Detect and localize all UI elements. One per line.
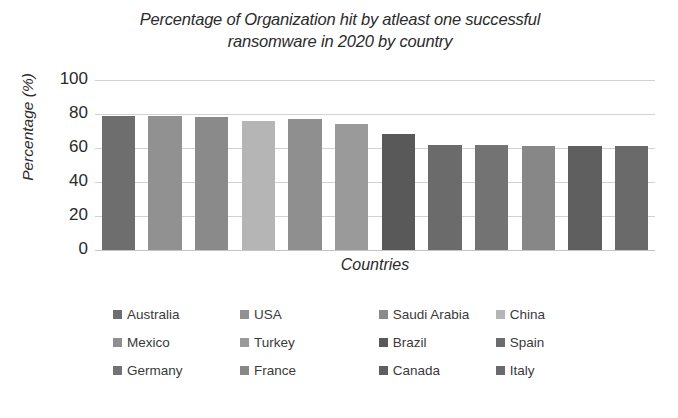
legend-item-turkey[interactable]: Turkey — [240, 335, 379, 350]
legend-swatch-icon — [496, 310, 505, 319]
bar-brazil — [382, 134, 416, 250]
y-axis-tick-label: 80 — [42, 103, 88, 123]
legend-row: AustraliaUSASaudi ArabiaChina — [95, 300, 595, 328]
y-axis-tick-label: 60 — [42, 137, 88, 157]
bar-france — [522, 146, 556, 250]
plot-area — [95, 80, 655, 251]
legend-label: Germany — [127, 363, 183, 378]
legend-swatch-icon — [113, 366, 122, 375]
bar-canada — [568, 146, 602, 250]
legend-item-australia[interactable]: Australia — [95, 307, 240, 322]
legend-item-spain[interactable]: Spain — [496, 335, 595, 350]
legend-item-mexico[interactable]: Mexico — [95, 335, 240, 350]
legend-item-canada[interactable]: Canada — [379, 363, 496, 378]
legend-item-usa[interactable]: USA — [240, 307, 379, 322]
legend-swatch-icon — [379, 338, 388, 347]
y-axis-tick-label: 100 — [42, 69, 88, 89]
bar-turkey — [335, 124, 369, 250]
legend-row: MexicoTurkeyBrazilSpain — [95, 328, 595, 356]
legend-label: Saudi Arabia — [393, 307, 470, 322]
legend-swatch-icon — [113, 310, 122, 319]
bar-saudi-arabia — [195, 117, 229, 250]
legend-swatch-icon — [496, 366, 505, 375]
legend-label: Italy — [510, 363, 535, 378]
bar-series — [95, 80, 655, 250]
legend-label: USA — [254, 307, 282, 322]
legend-swatch-icon — [113, 338, 122, 347]
legend-item-china[interactable]: China — [496, 307, 595, 322]
bar-china — [242, 121, 276, 250]
y-axis-tick-labels: 100806040200 — [30, 80, 88, 251]
y-axis-tick-label: 20 — [42, 205, 88, 225]
gridline — [95, 250, 655, 251]
legend-label: Turkey — [254, 335, 295, 350]
bar-chart: Percentage of Organization hit by atleas… — [0, 0, 678, 418]
legend-label: Australia — [127, 307, 180, 322]
legend-swatch-icon — [240, 338, 249, 347]
legend-item-germany[interactable]: Germany — [95, 363, 240, 378]
chart-title-line-1: Percentage of Organization hit by atleas… — [140, 10, 541, 28]
legend-swatch-icon — [379, 310, 388, 319]
legend-item-brazil[interactable]: Brazil — [379, 335, 496, 350]
chart-title-line-2: ransomware in 2020 by country — [228, 32, 452, 50]
legend-swatch-icon — [240, 310, 249, 319]
legend-swatch-icon — [240, 366, 249, 375]
y-axis-tick-label: 0 — [42, 239, 88, 259]
legend-item-italy[interactable]: Italy — [496, 363, 595, 378]
bar-germany — [475, 145, 509, 250]
legend-label: Canada — [393, 363, 440, 378]
bar-mexico — [288, 119, 322, 250]
y-axis-tick-label: 40 — [42, 171, 88, 191]
bar-australia — [102, 116, 136, 250]
x-axis-title: Countries — [95, 256, 655, 274]
legend-label: Spain — [510, 335, 545, 350]
legend: AustraliaUSASaudi ArabiaChinaMexicoTurke… — [95, 300, 595, 384]
legend-swatch-icon — [496, 338, 505, 347]
bar-usa — [148, 116, 182, 250]
legend-item-saudi-arabia[interactable]: Saudi Arabia — [379, 307, 496, 322]
bar-italy — [615, 146, 649, 250]
legend-label: Brazil — [393, 335, 427, 350]
legend-label: Mexico — [127, 335, 170, 350]
legend-label: France — [254, 363, 296, 378]
legend-swatch-icon — [379, 366, 388, 375]
chart-title: Percentage of Organization hit by atleas… — [60, 8, 620, 52]
legend-item-france[interactable]: France — [240, 363, 379, 378]
bar-spain — [428, 145, 462, 250]
legend-row: GermanyFranceCanadaItaly — [95, 356, 595, 384]
legend-label: China — [510, 307, 545, 322]
